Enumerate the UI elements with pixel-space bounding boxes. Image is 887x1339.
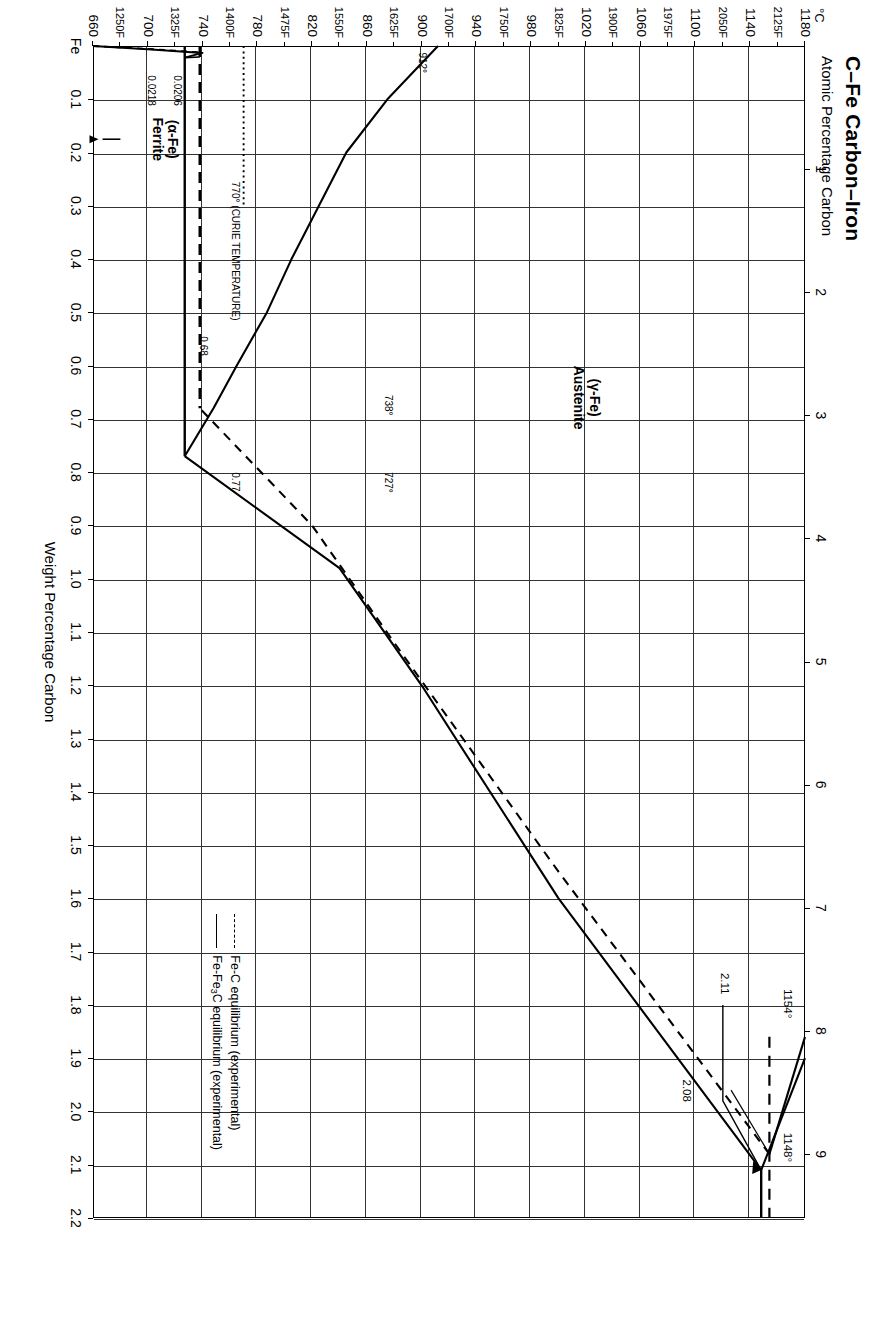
x-tick-label-1.0: 1.0 [68, 569, 84, 588]
x-origin-label-fe: Fe [68, 38, 84, 54]
label-eutectic-comp-dashed: 2.08 [681, 1079, 693, 1101]
x-tick-1.5 [88, 845, 93, 846]
legend: Fe-C equilibrium (experimental) Fe-Fe3C … [208, 914, 244, 1150]
x-tick-label-1.3: 1.3 [68, 729, 84, 748]
x-tick-0.4 [88, 259, 93, 260]
y-tick-f-1400F [229, 42, 230, 46]
y-tick-label-f-1700F: 1700F [443, 0, 455, 38]
x-tick-0.2 [88, 153, 93, 154]
y-tick-740 [202, 41, 203, 46]
y-tick-label-f-1250F: 1250F [114, 0, 126, 38]
phase-label-austenite-line1: (γ-Fe) [586, 366, 602, 430]
legend-swatch-dashed [234, 914, 235, 948]
y-tick-label-c-1100: 1100 [688, 0, 703, 37]
y-tick-label-f-1975F: 1975F [662, 0, 674, 38]
phase-label-ferrite-line1: (α-Fe) [164, 117, 180, 161]
y-tick-f-1975F [667, 42, 668, 46]
y-tick-label-c-1140: 1140 [743, 0, 758, 37]
label-curie-temperature: 770° (CURIE TEMPERATURE) [230, 182, 241, 321]
x-tick-0.8 [88, 472, 93, 473]
x-tick-label-0.4: 0.4 [68, 249, 84, 268]
x-tick-2.1 [88, 1165, 93, 1166]
x-tick-0.1 [88, 99, 93, 100]
y-tick-label-f-2125F: 2125F [772, 0, 784, 38]
x-tick-label-2.1: 2.1 [68, 1155, 84, 1174]
label-eutectoid-temp-solid: 727° [383, 472, 394, 493]
x-tick-label-0.7: 0.7 [68, 409, 84, 428]
legend-item-fe-c: Fe-C equilibrium (experimental) [226, 914, 244, 1150]
phase-boundary-curves [0, 0, 887, 1339]
x-tick-label-1.6: 1.6 [68, 889, 84, 908]
x-tick-1.2 [88, 685, 93, 686]
label-eutectic-temp-solid: 1148° [782, 1133, 794, 1162]
x-tick-label-1.4: 1.4 [68, 782, 84, 801]
y-tick-label-c-820: 820 [305, 0, 320, 37]
y-tick-label-f-1475F: 1475F [279, 0, 291, 38]
y-tick-label-f-1550F: 1550F [333, 0, 345, 38]
x-tick-1.8 [88, 1005, 93, 1006]
y-tick-f-1325F [174, 42, 175, 46]
y-tick-860 [366, 41, 367, 46]
x-tick-0.3 [88, 206, 93, 207]
y-tick-1060 [640, 41, 641, 46]
x-atomic-tick-7 [805, 908, 810, 909]
legend-swatch-solid [216, 914, 217, 948]
x-atomic-tick-label-3: 3 [813, 411, 829, 419]
x-tick-label-0.1: 0.1 [68, 90, 84, 109]
x-tick-label-1.8: 1.8 [68, 995, 84, 1014]
y-tick-label-c-780: 780 [250, 0, 265, 37]
y-tick-label-c-1020: 1020 [578, 0, 593, 37]
y-tick-label-c-980: 980 [524, 0, 539, 37]
y-tick-label-f-1325F: 1325F [169, 0, 181, 38]
x-atomic-tick-5 [805, 662, 810, 663]
y-tick-label-c-700: 700 [140, 0, 155, 37]
x-atomic-tick-label-8: 8 [813, 1027, 829, 1035]
phase-diagram-page: C–Fe Carbon–Iron Atomic Percentage Carbo… [0, 0, 887, 1339]
label-ferrite-solubility-solid: 0.0218 [146, 75, 157, 106]
x-tick-label-1.5: 1.5 [68, 835, 84, 854]
y-tick-f-1700F [448, 42, 449, 46]
x-atomic-tick-label-7: 7 [813, 904, 829, 912]
x-tick-0.6 [88, 366, 93, 367]
label-eutectoid-comp-solid: 0.77 [230, 472, 241, 491]
x-tick-1.6 [88, 898, 93, 899]
x-atomic-tick-label-4: 4 [813, 535, 829, 543]
y-tick-label-f-2050F: 2050F [717, 0, 729, 38]
x-tick-label-0.8: 0.8 [68, 462, 84, 481]
y-tick-label-f-1400F: 1400F [224, 0, 236, 38]
x-tick-0.5 [88, 312, 93, 313]
label-eutectic-temp-dashed: 1154° [782, 989, 794, 1018]
x-tick-label-0.5: 0.5 [68, 303, 84, 322]
y-tick-f-1475F [284, 42, 285, 46]
y-tick-label-f-1825F: 1825F [553, 0, 565, 38]
y-tick-1020 [585, 41, 586, 46]
label-eutectic-comp-solid: 2.11 [719, 973, 731, 995]
x-atomic-tick-6 [805, 785, 810, 786]
label-eutectoid-comp-dashed: 0.68 [198, 336, 209, 355]
x-atomic-tick-4 [805, 538, 810, 539]
x-atomic-tick-label-2: 2 [813, 288, 829, 296]
y-tick-label-c-1180: 1180 [798, 0, 813, 37]
y-tick-f-2050F [722, 42, 723, 46]
x-atomic-tick-label-9: 9 [813, 1150, 829, 1158]
x-tick-label-0.3: 0.3 [68, 196, 84, 215]
x-tick-label-1.1: 1.1 [68, 622, 84, 641]
legend-item-fe-fe3c: Fe-Fe3C equilibrium (experimental) [208, 914, 226, 1150]
x-tick-label-2.2: 2.2 [68, 1208, 84, 1227]
x-atomic-tick-label-1: 1 [813, 165, 829, 173]
rotated-figure-canvas: C–Fe Carbon–Iron Atomic Percentage Carbo… [0, 0, 887, 1339]
y-tick-660 [92, 41, 93, 46]
x-tick-1.7 [88, 952, 93, 953]
x-tick-0.9 [88, 525, 93, 526]
x-atomic-tick-3 [805, 415, 810, 416]
phase-label-austenite-line2: Austenite [570, 366, 586, 430]
legend-label-fe-fe3c: Fe-Fe3C equilibrium (experimental) [209, 955, 224, 1150]
y-tick-f-1750F [503, 42, 504, 46]
y-tick-label-c-660: 660 [86, 0, 101, 37]
y-tick-1180 [804, 41, 805, 46]
y-tick-label-f-1750F: 1750F [498, 0, 510, 38]
label-ferrite-solubility-dashed: 0.0206 [172, 75, 183, 106]
x-tick-0.7 [88, 419, 93, 420]
x-tick-label-1.7: 1.7 [68, 942, 84, 961]
y-tick-f-1250F [119, 42, 120, 46]
